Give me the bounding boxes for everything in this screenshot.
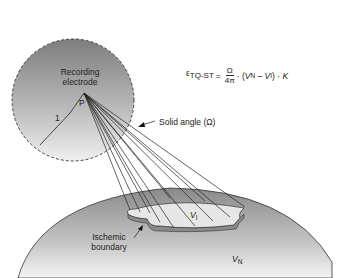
eq-minus: – <box>255 71 264 81</box>
eq-denominator: 4π <box>225 76 235 85</box>
point-p-label: P <box>79 98 85 108</box>
ischemic-boundary-label: Ischemic boundary <box>87 232 131 252</box>
eq-numerator: Ω <box>226 66 234 76</box>
recording-electrode-label: Recording electrode <box>59 67 101 87</box>
solid-angle-diagram <box>0 0 342 278</box>
unit-sphere <box>12 39 134 161</box>
vi-subscript: I <box>196 214 198 221</box>
solid-angle-arrowhead <box>138 122 145 127</box>
recording-label-line2: electrode <box>59 77 101 87</box>
ischemic-label-line1: Ischemic <box>87 232 131 242</box>
eq-equals: = <box>216 71 221 81</box>
eq-k: K <box>282 71 288 81</box>
eq-epsilon-sub: TQ-ST <box>190 71 214 80</box>
equation: εTQ-ST = Ω 4π · ( VN – VI ) · K <box>186 66 288 85</box>
eq-tail: ) · <box>272 71 282 81</box>
eq-epsilon: ε <box>186 68 190 78</box>
vn-label: VN <box>232 254 242 267</box>
vi-label: VI <box>190 210 197 223</box>
eq-fraction: Ω 4π <box>225 66 235 85</box>
ischemic-label-line2: boundary <box>87 242 131 252</box>
solid-angle-label: Solid angle (Ω) <box>159 117 215 127</box>
radius-label: 1 <box>55 113 60 123</box>
eq-middle: · ( <box>237 71 245 81</box>
recording-label-line1: Recording <box>59 67 101 77</box>
vn-subscript: N <box>238 258 243 265</box>
